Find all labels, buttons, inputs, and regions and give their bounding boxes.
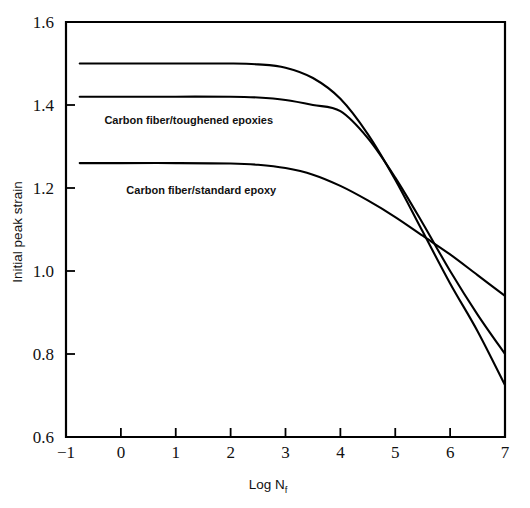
x-tick-label: 4 — [336, 443, 345, 462]
y-tick-label: 1.2 — [33, 179, 54, 198]
x-axis-title-group: Log Nf — [249, 477, 288, 495]
x-tick-label: 7 — [501, 443, 510, 462]
x-axis-title-main: Log N — [249, 477, 285, 492]
axes-group — [66, 22, 505, 437]
y-tick-label: 1.4 — [33, 96, 55, 115]
x-axis-tick-labels: −101234567 — [57, 443, 510, 462]
x-tick-label: 2 — [226, 443, 235, 462]
series-annotation-0: Carbon fiber/toughened epoxies — [104, 114, 273, 126]
x-tick-label: 1 — [172, 443, 181, 462]
y-axis-ticks — [66, 22, 75, 437]
x-tick-label: −1 — [57, 443, 75, 462]
y-axis-title: Initial peak strain — [10, 181, 25, 282]
x-tick-label: 5 — [391, 443, 400, 462]
x-tick-label: 6 — [446, 443, 455, 462]
data-curve-2 — [80, 163, 505, 296]
chart-figure: 0.60.81.01.21.41.6 −101234567 Initial pe… — [0, 0, 530, 508]
chart-canvas: 0.60.81.01.21.41.6 −101234567 Initial pe… — [0, 0, 530, 508]
y-tick-label: 1.6 — [33, 13, 54, 32]
data-curve-1 — [80, 97, 505, 354]
data-curves-group — [80, 63, 505, 385]
x-tick-label: 3 — [281, 443, 290, 462]
series-annotation-1: Carbon fiber/standard epoxy — [126, 184, 277, 196]
y-tick-label: 1.0 — [33, 262, 54, 281]
y-tick-label: 0.6 — [33, 428, 54, 447]
y-axis-title-group: Initial peak strain — [10, 181, 25, 282]
y-tick-label: 0.8 — [33, 345, 54, 364]
x-axis-title: Log Nf — [249, 477, 288, 495]
y-axis-tick-labels: 0.60.81.01.21.41.6 — [33, 13, 55, 447]
x-axis-title-subscript: f — [285, 484, 288, 495]
x-axis-ticks — [66, 428, 505, 437]
data-curve-0 — [80, 63, 505, 385]
series-annotations-group: Carbon fiber/toughened epoxiesCarbon fib… — [104, 114, 277, 197]
axis-frame — [66, 22, 505, 437]
x-tick-label: 0 — [117, 443, 126, 462]
